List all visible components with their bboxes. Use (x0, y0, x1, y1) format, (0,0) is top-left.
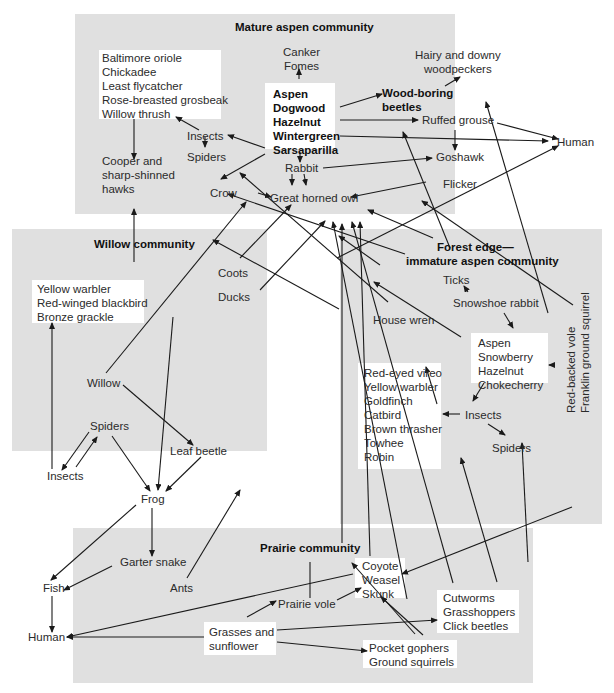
node-snowshoe-rabbit: Snowshoe rabbit (453, 296, 539, 310)
node-human-right: Human (557, 135, 594, 149)
node-grasses-sunflower: Grasses and sunflower (209, 625, 274, 653)
node-label: Snowberry (478, 350, 543, 364)
node-ants: Ants (170, 581, 193, 595)
mature-aspen-title: Mature aspen community (235, 20, 374, 34)
node-crow: Crow (210, 186, 237, 200)
node-leaf-beetle: Leaf beetle (170, 444, 227, 458)
node-willow: Willow (87, 376, 120, 390)
forest-edge-title-1: Forest edge— (437, 240, 514, 254)
node-label: sunflower (209, 639, 274, 653)
node-ticks: Ticks (443, 273, 469, 287)
node-ducks: Ducks (218, 290, 250, 304)
node-flicker: Flicker (443, 177, 477, 191)
node-label: Ground squirrels (369, 655, 454, 669)
node-label: Goldfinch (364, 394, 442, 408)
node-gophers-squirrels: Pocket gophers Ground squirrels (369, 641, 454, 669)
node-label: Franklin ground squirrel (578, 292, 592, 413)
node-label: Fomes (283, 59, 320, 73)
node-label: Chickadee (102, 65, 228, 79)
node-label: Sarsaparilla (273, 143, 340, 157)
node-willow-birds: Yellow warbler Red-winged blackbird Bron… (37, 282, 148, 324)
node-prairie-insects: Cutworms Grasshoppers Click beetles (443, 591, 515, 633)
node-label: Grasses and (209, 625, 274, 639)
node-label: beetles (382, 100, 453, 114)
node-label: Robin (364, 450, 442, 464)
node-label: Wood-boring (382, 86, 453, 100)
node-label: Pocket gophers (369, 641, 454, 655)
node-insects-mature: Insects (187, 129, 223, 143)
node-label: Coyote (362, 559, 400, 573)
node-ruffed-grouse: Ruffed grouse (422, 113, 494, 127)
node-label: Hazelnut (273, 115, 340, 129)
node-label: Towhee (364, 436, 442, 450)
node-label: Willow thrush (102, 107, 228, 121)
node-label: Click beetles (443, 619, 515, 633)
node-label: Hairy and downy (415, 48, 501, 62)
node-label: Dogwood (273, 101, 340, 115)
node-label: Yellow warbler (37, 282, 148, 296)
node-label: Baltimore oriole (102, 51, 228, 65)
node-spiders-mature: Spiders (187, 150, 226, 164)
node-garter-snake: Garter snake (120, 555, 186, 569)
node-label: Brown thrasher (364, 422, 442, 436)
node-label: Bronze grackle (37, 310, 148, 324)
node-frog: Frog (141, 492, 165, 506)
node-spiders-willow: Spiders (90, 419, 129, 433)
node-insects-edge: Insects (465, 408, 501, 422)
node-label: Wintergreen (273, 129, 340, 143)
node-label: sharp-shinned (102, 168, 175, 182)
willow-title: Willow community (94, 237, 195, 251)
node-label: woodpeckers (415, 62, 501, 76)
node-label: Aspen (273, 87, 340, 101)
node-canker-fomes: Canker Fomes (283, 45, 320, 73)
node-label: Grasshoppers (443, 605, 515, 619)
node-label: Aspen (478, 336, 543, 350)
willow-panel (12, 229, 267, 451)
node-label: Hazelnut (478, 364, 543, 378)
node-voles-squirrel: Red-backed vole Franklin ground squirrel (564, 292, 592, 413)
node-label: Rose-breasted grosbeak (102, 93, 228, 107)
node-mature-plants: Aspen Dogwood Hazelnut Wintergreen Sarsa… (273, 87, 340, 157)
node-label: Red-eyed vireo (364, 366, 442, 380)
node-hairy-downy-woodpeckers: Hairy and downy woodpeckers (415, 48, 501, 76)
node-label: Skunk (362, 587, 400, 601)
node-edge-plants: Aspen Snowberry Hazelnut Chokecherry (478, 336, 543, 392)
node-great-horned-owl: Great horned owl (270, 191, 358, 205)
node-cooper-hawks: Cooper and sharp-shinned hawks (102, 154, 175, 196)
node-fish: Fish (43, 581, 65, 595)
forest-edge-title-2: immature aspen community (406, 254, 559, 268)
node-label: Canker (283, 45, 320, 59)
node-label: Red-winged blackbird (37, 296, 148, 310)
node-human-left: Human (28, 630, 65, 644)
node-label: hawks (102, 182, 175, 196)
node-rabbit: Rabbit (285, 161, 318, 175)
node-house-wren: House wren (373, 313, 434, 327)
node-label: Cooper and (102, 154, 175, 168)
node-label: Red-backed vole (564, 292, 578, 413)
node-mature-birds: Baltimore oriole Chickadee Least flycatc… (102, 51, 228, 121)
node-insects-willow: Insects (47, 469, 83, 483)
node-prairie-vole: Prairie vole (278, 597, 336, 611)
node-label: Catbird (364, 408, 442, 422)
node-label: Least flycatcher (102, 79, 228, 93)
node-prairie-predators: Coyote Weasel Skunk (362, 559, 400, 601)
node-label: Cutworms (443, 591, 515, 605)
node-goshawk: Goshawk (436, 150, 484, 164)
node-coots: Coots (218, 266, 248, 280)
node-label: Weasel (362, 573, 400, 587)
node-edge-birds: Red-eyed vireo Yellow warbler Goldfinch … (364, 366, 442, 464)
node-label: Yellow warbler (364, 380, 442, 394)
prairie-title: Prairie community (260, 541, 360, 555)
node-label: Chokecherry (478, 378, 543, 392)
node-wood-boring-beetles: Wood-boring beetles (382, 86, 453, 114)
node-spiders-edge: Spiders (492, 441, 531, 455)
